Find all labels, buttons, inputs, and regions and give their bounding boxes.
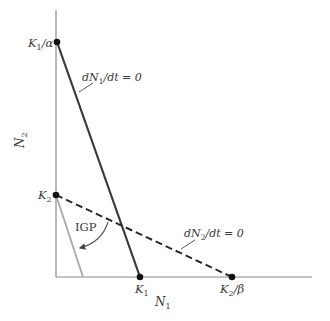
n1-label-leader [79, 83, 93, 92]
n2-label-leader [181, 240, 195, 249]
point-k2-over-beta [229, 274, 236, 281]
point-k1 [137, 274, 144, 281]
label-k2: K2 [37, 188, 52, 204]
point-k2 [53, 192, 60, 199]
label-k1: K1 [134, 282, 149, 298]
label-n1-isocline: dN1/dt = 0 [82, 71, 142, 86]
x-axis-label: N1 [154, 295, 171, 311]
label-igp: IGP [75, 220, 97, 234]
label-k2-over-beta: K2/β [219, 282, 245, 298]
label-n2-isocline: dN2/dt = 0 [184, 227, 244, 242]
point-k1-over-alpha [54, 39, 61, 46]
y-axis-label: N2 [13, 132, 29, 149]
igp-shifted-isocline [56, 195, 83, 277]
label-k1-over-alpha: K1/α [27, 36, 54, 52]
isocline-diagram: K1/α K2 K1 K2/β dN1/dt = 0 dN2/dt = 0 IG… [0, 0, 330, 321]
